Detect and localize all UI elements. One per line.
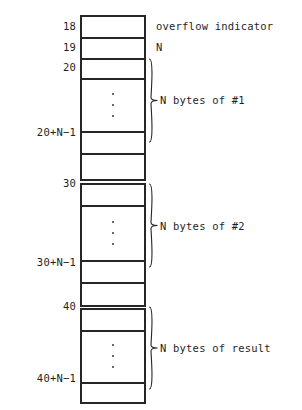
cell-n: [80, 37, 146, 58]
addr-20: 20: [2, 61, 76, 73]
annotation-column: overflow indicatorNN bytes of #1N bytes …: [146, 0, 302, 410]
cell-block2-last: [80, 260, 146, 282]
cell-block1-first: [80, 58, 146, 78]
annotation-n: N: [156, 41, 163, 53]
addr-30-n-1: 30+N−1: [2, 256, 76, 268]
memory-layout-diagram: 18192020+N−13030+N−14040+N−1 overflow in…: [0, 0, 302, 410]
cell-gap-1: [80, 153, 146, 181]
cell-block1-last: [80, 131, 146, 153]
brace-block-2: [148, 183, 159, 268]
addr-30: 30: [2, 177, 76, 189]
brace-block-result: [148, 306, 159, 390]
annotation-overflow-indicator: overflow indicator: [156, 20, 273, 32]
memory-cell-column: [80, 15, 146, 393]
addr-40-n-1: 40+N−1: [2, 372, 76, 384]
annotation-n-bytes-2: N bytes of #2: [160, 220, 245, 232]
cell-block2-first: [80, 183, 146, 205]
addr-19: 19: [2, 41, 76, 53]
annotation-n-bytes-1: N bytes of #1: [160, 94, 245, 106]
cell-block1-middle: [80, 78, 146, 131]
addr-40: 40: [2, 300, 76, 312]
cell-block3-first: [80, 308, 146, 330]
cell-block3-middle: [80, 330, 146, 382]
addr-20-n-1: 20+N−1: [2, 126, 76, 138]
brace-block-1: [148, 58, 159, 143]
cell-gap-2: [80, 282, 146, 307]
cell-block3-last: [80, 382, 146, 404]
addr-18: 18: [2, 20, 76, 32]
cell-block2-middle: [80, 205, 146, 260]
address-label-column: 18192020+N−13030+N−14040+N−1: [0, 0, 76, 410]
cell-overflow-indicator: [80, 15, 146, 37]
annotation-n-bytes-result: N bytes of result: [160, 342, 271, 354]
